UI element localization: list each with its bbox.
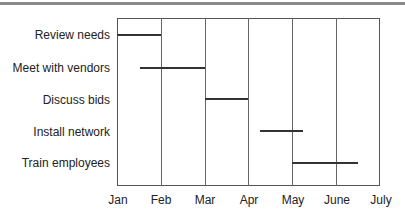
gridline-may [292, 18, 293, 186]
month-label: Feb [151, 193, 172, 207]
month-label: May [282, 193, 305, 207]
task-label: Install network [33, 125, 110, 139]
month-label: Mar [195, 193, 216, 207]
bar-install-network [260, 130, 303, 132]
task-label: Meet with vendors [13, 61, 110, 75]
gridline-june [336, 18, 337, 186]
task-label: Discuss bids [43, 93, 110, 107]
task-label: Review needs [35, 28, 110, 42]
bar-train-employees [292, 162, 358, 164]
task-label: Train employees [22, 156, 110, 170]
gridline-mar [205, 18, 206, 186]
bar-discuss-bids [205, 98, 248, 100]
month-label: July [370, 193, 391, 207]
month-label: Apr [240, 193, 259, 207]
month-label: Jan [108, 193, 127, 207]
bar-meet-with-vendors [140, 67, 205, 69]
top-rule [0, 2, 405, 5]
gridline-feb [161, 18, 162, 186]
bar-review-needs [117, 34, 161, 36]
month-label: June [324, 193, 350, 207]
gridline-apr [248, 18, 249, 186]
